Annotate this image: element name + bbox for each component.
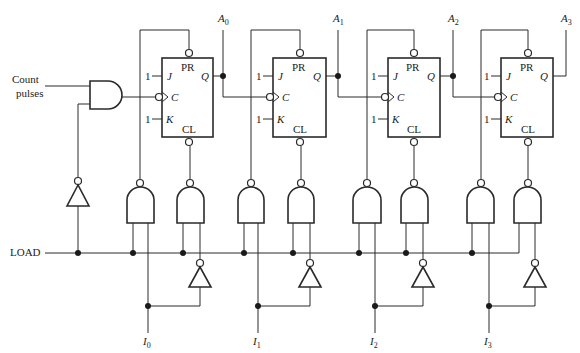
junction-dot xyxy=(290,250,296,256)
k-const-label: 1 xyxy=(371,113,377,125)
junction-dot xyxy=(145,303,151,309)
j-const-label: 1 xyxy=(371,70,377,82)
junction-dot xyxy=(220,73,226,79)
input-i2-label: I2 xyxy=(369,335,378,350)
load-label: LOAD xyxy=(10,246,41,258)
k-label: K xyxy=(504,113,513,125)
j-const-label: 1 xyxy=(484,70,490,82)
clock-label: C xyxy=(510,91,518,103)
k-label: K xyxy=(391,113,400,125)
k-const-label: 1 xyxy=(484,113,490,125)
load-inverter-output-wire xyxy=(78,104,90,177)
data-inverter-0 xyxy=(189,260,211,288)
k-label: K xyxy=(165,113,174,125)
q-label: Q xyxy=(313,70,321,82)
clear-nand-gate-0 xyxy=(177,180,204,224)
clear-label: CL xyxy=(293,123,307,135)
junction-dot xyxy=(486,303,492,309)
q-label: Q xyxy=(540,70,548,82)
flip-flop-3: PR CL J C K Q 1 1 xyxy=(484,50,553,146)
data-inverter-1 xyxy=(299,260,321,288)
preset-nand-gate-3 xyxy=(467,180,494,224)
junction-dot xyxy=(356,250,362,256)
preset-nand-gate-2 xyxy=(353,180,381,224)
count-pulses-label: Count xyxy=(12,73,39,85)
counter-circuit-diagram: Count pulses LOAD PR CL J C K Q 1 1 xyxy=(0,0,580,353)
preset-nand-gate-0 xyxy=(127,180,154,224)
flip-flop-1: PR CL J C K Q 1 1 xyxy=(256,50,326,146)
junction-dot xyxy=(241,250,247,256)
preset-label: PR xyxy=(406,61,420,73)
load-inverter xyxy=(67,178,89,207)
junction-dot xyxy=(180,250,186,256)
clear-label: CL xyxy=(407,123,421,135)
j-const-label: 1 xyxy=(256,70,262,82)
junction-dot xyxy=(130,250,136,256)
flip-flop-0: PR CL J C K Q 1 1 xyxy=(145,50,213,146)
clock-label: C xyxy=(171,91,179,103)
clear-nand-gate-1 xyxy=(288,180,314,224)
clear-nand-gate-3 xyxy=(514,180,541,224)
k-label: K xyxy=(276,113,285,125)
junction-dot xyxy=(255,303,261,309)
junction-dot xyxy=(403,250,409,256)
data-inverter-3 xyxy=(524,260,546,288)
junction-dot xyxy=(469,250,475,256)
clock-label: C xyxy=(397,91,405,103)
j-const-label: 1 xyxy=(145,70,151,82)
junction-dot xyxy=(450,73,456,79)
preset-nand-gate-1 xyxy=(238,180,264,224)
preset-label: PR xyxy=(292,61,306,73)
enable-and-gate xyxy=(90,81,122,109)
junction-dot xyxy=(75,250,81,256)
clock-label: C xyxy=(282,91,290,103)
output-a3-label: A3 xyxy=(560,12,572,27)
clear-nand-gate-2 xyxy=(401,180,428,224)
preset-label: PR xyxy=(181,61,195,73)
q-label: Q xyxy=(427,70,435,82)
clear-label: CL xyxy=(182,123,196,135)
preset-label: PR xyxy=(520,61,534,73)
clear-label: CL xyxy=(521,123,535,135)
junction-dot xyxy=(335,73,341,79)
input-i1-label: I1 xyxy=(252,335,261,350)
k-const-label: 1 xyxy=(145,113,151,125)
junction-dot xyxy=(372,303,378,309)
count-pulses-label-line2: pulses xyxy=(16,87,44,99)
output-a0-label: A0 xyxy=(217,12,229,27)
q-label: Q xyxy=(201,70,209,82)
output-a1-label: A1 xyxy=(332,12,344,27)
output-a2-label: A2 xyxy=(447,12,459,27)
flip-flop-2: PR CL J C K Q 1 1 xyxy=(371,50,440,146)
data-inverter-2 xyxy=(412,260,434,288)
k-const-label: 1 xyxy=(256,113,262,125)
input-i3-label: I3 xyxy=(483,335,492,350)
input-i0-label: I0 xyxy=(142,335,151,350)
